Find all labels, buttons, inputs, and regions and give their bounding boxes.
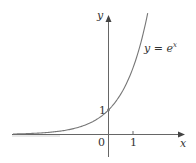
function-label: y = ex (143, 41, 177, 55)
function-label-base: y = e (143, 42, 173, 55)
x-tick-label-1: 1 (130, 136, 137, 149)
exponential-graph: y x 0 1 1 y = ex (0, 0, 196, 163)
x-axis-label: x (180, 137, 187, 150)
y-intercept-point (107, 109, 110, 112)
y-tick-label-1: 1 (99, 104, 106, 117)
exp-curve (13, 13, 148, 134)
origin-label: 0 (98, 136, 105, 149)
function-label-exponent: x (173, 41, 177, 49)
y-axis-label: y (96, 9, 104, 22)
